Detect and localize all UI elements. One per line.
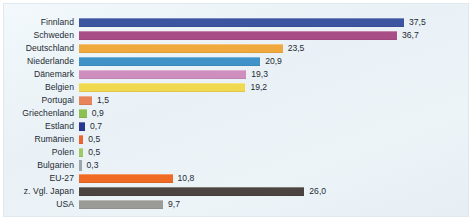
bar-value-label: 10,8 [178,172,195,185]
bar [79,96,92,105]
bar [79,109,87,118]
bar-category-label: Finnland [4,16,74,29]
bar-row: Griechenland0,9 [4,107,468,120]
bar-value-label: 19,3 [251,68,268,81]
bar-category-label: Rumänien [4,133,74,146]
chart-frame: Finnland37,5Schweden36,7Deutschland23,5N… [3,3,469,217]
bar-category-label: Portugal [4,94,74,107]
bar-category-label: z. Vgl. Japan [4,185,74,198]
bar-row: Deutschland23,5 [4,42,468,55]
bar-value-label: 19,2 [250,81,267,94]
bar [79,83,245,92]
bar-value-label: 23,5 [288,42,305,55]
bar-value-label: 0,7 [90,120,102,133]
bar-category-label: Polen [4,146,74,159]
bar-value-label: 0,5 [88,133,100,146]
bar [79,135,83,144]
bar [79,174,173,183]
chart-root: Finnland37,5Schweden36,7Deutschland23,5N… [0,0,472,220]
bar-category-label: USA [4,198,74,211]
bar [79,122,85,131]
bar [79,148,83,157]
bar [79,18,404,27]
bar-value-label: 37,5 [409,16,426,29]
bar-track: 36,7 [79,29,468,42]
bar-category-label: Belgien [4,81,74,94]
bar-track: 20,9 [79,55,468,68]
bar-row: Bulgarien0,3 [4,159,468,172]
bar-category-label: Griechenland [4,107,74,120]
bar-category-label: Deutschland [4,42,74,55]
bar-track: 1,5 [79,94,468,107]
bar-value-label: 20,9 [265,55,282,68]
bar-category-label: Niederlande [4,55,74,68]
bar-chart-plot: Finnland37,5Schweden36,7Deutschland23,5N… [4,4,468,216]
bar-track: 0,7 [79,120,468,133]
bar-track: 26,0 [79,185,468,198]
bar-value-label: 0,9 [92,107,104,120]
bar-category-label: Dänemark [4,68,74,81]
bar-row: Dänemark19,3 [4,68,468,81]
bar-row: Polen0,5 [4,146,468,159]
bar [79,200,163,209]
bar-row: Niederlande20,9 [4,55,468,68]
bar-category-label: EU-27 [4,172,74,185]
bar-track: 0,5 [79,146,468,159]
bar-track: 0,9 [79,107,468,120]
bar-row: Belgien19,2 [4,81,468,94]
bar-value-label: 36,7 [402,29,419,42]
bar-track: 19,2 [79,81,468,94]
bar-row: USA9,7 [4,198,468,211]
bar-track: 0,3 [79,159,468,172]
bar-track: 10,8 [79,172,468,185]
bar [79,70,246,79]
bar-track: 19,3 [79,68,468,81]
bar [79,31,397,40]
bar-row: Schweden36,7 [4,29,468,42]
bar [79,57,260,66]
bar [79,160,82,171]
bar-value-label: 26,0 [309,185,326,198]
bar-row: Portugal1,5 [4,94,468,107]
bar-track: 9,7 [79,198,468,211]
bar-category-label: Schweden [4,29,74,42]
bar-row: Finnland37,5 [4,16,468,29]
bar-value-label: 0,3 [87,159,99,172]
bar-row: EU-2710,8 [4,172,468,185]
bar [79,44,283,53]
bar-category-label: Bulgarien [4,159,74,172]
bar-track: 0,5 [79,133,468,146]
bar [79,187,304,196]
bar-row: z. Vgl. Japan26,0 [4,185,468,198]
bar-row: Estland0,7 [4,120,468,133]
bar-track: 23,5 [79,42,468,55]
bar-track: 37,5 [79,16,468,29]
bar-row: Rumänien0,5 [4,133,468,146]
bar-value-label: 9,7 [168,198,180,211]
bar-category-label: Estland [4,120,74,133]
bar-value-label: 0,5 [88,146,100,159]
bar-value-label: 1,5 [97,94,109,107]
